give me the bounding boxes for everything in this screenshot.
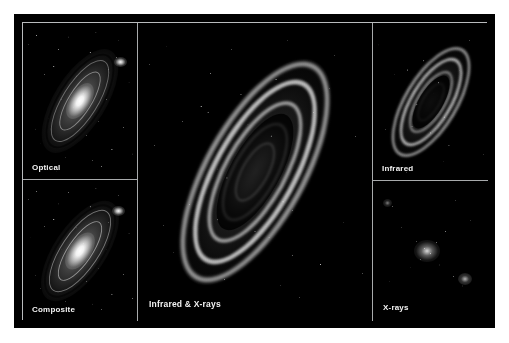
panel-xrays[interactable]: X-rays bbox=[373, 181, 488, 321]
divider-infrared-xrays bbox=[373, 180, 488, 181]
composite-companion-galaxy bbox=[112, 206, 125, 216]
panel-infrared[interactable]: Infrared bbox=[373, 23, 488, 180]
optical-companion-galaxy bbox=[114, 57, 127, 67]
infrared-star-forming-clumps bbox=[373, 23, 488, 180]
panel-label-infrared-xrays: Infrared & X-rays bbox=[149, 299, 221, 309]
xray-corner-source bbox=[383, 199, 392, 207]
divider-optical-composite bbox=[23, 179, 137, 180]
multiwavelength-galaxy-figure: Optical Composite bbox=[0, 0, 509, 343]
divider-center-right bbox=[372, 23, 373, 321]
panel-label-infrared: Infrared bbox=[382, 164, 413, 173]
panel-infrared-xrays[interactable]: Infrared & X-rays bbox=[138, 23, 372, 321]
center-star-forming-clumps bbox=[138, 23, 372, 321]
xray-offset-source bbox=[458, 273, 472, 285]
panel-optical[interactable]: Optical bbox=[23, 23, 137, 179]
panel-label-composite: Composite bbox=[32, 305, 75, 314]
panel-composite[interactable]: Composite bbox=[23, 180, 137, 321]
figure-frame: Optical Composite bbox=[14, 14, 495, 328]
panel-grid: Optical Composite bbox=[22, 22, 487, 320]
divider-left-center bbox=[137, 23, 138, 321]
panel-label-optical: Optical bbox=[32, 163, 61, 172]
panel-label-xrays: X-rays bbox=[383, 303, 409, 312]
